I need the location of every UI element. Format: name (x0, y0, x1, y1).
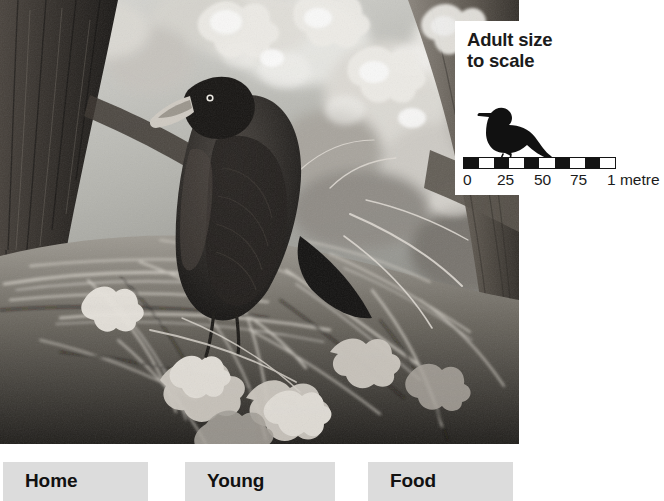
scale-tick-1-metre: 1 metre (607, 171, 660, 189)
nest-photograph (0, 0, 519, 444)
scale-bar-segment (494, 158, 509, 168)
bottom-navigation-bar: Home Young Food (0, 462, 664, 501)
adult-size-to-scale-inset: Adult size to scale 0 25 50 75 1 metre (455, 21, 664, 195)
scale-bar-labels: 0 25 50 75 1 metre (455, 171, 664, 195)
nest-photograph-image (0, 0, 519, 444)
scale-bar-segment (585, 158, 600, 168)
nav-button-food[interactable]: Food (368, 462, 513, 501)
scale-bar-segment (464, 158, 479, 168)
scale-bar (463, 157, 616, 169)
scale-bar-segment (570, 158, 585, 168)
scale-bar-segment (509, 158, 524, 168)
scale-bar-segment (524, 158, 539, 168)
scale-tick-75: 75 (570, 171, 587, 189)
nav-button-food-label: Food (390, 470, 436, 492)
scale-bar-segment (600, 158, 615, 168)
scale-tick-25: 25 (497, 171, 514, 189)
inset-title: Adult size to scale (467, 29, 657, 72)
scale-bar-segment (479, 158, 494, 168)
nav-button-young-label: Young (207, 470, 264, 492)
nav-button-young[interactable]: Young (185, 462, 335, 501)
scale-bar-segment (539, 158, 554, 168)
rook-silhouette-icon (467, 103, 559, 165)
scale-tick-0: 0 (463, 171, 472, 189)
scale-tick-50: 50 (534, 171, 551, 189)
nav-button-home[interactable]: Home (3, 462, 148, 501)
scale-bar-segment (555, 158, 570, 168)
nav-button-home-label: Home (25, 470, 77, 492)
